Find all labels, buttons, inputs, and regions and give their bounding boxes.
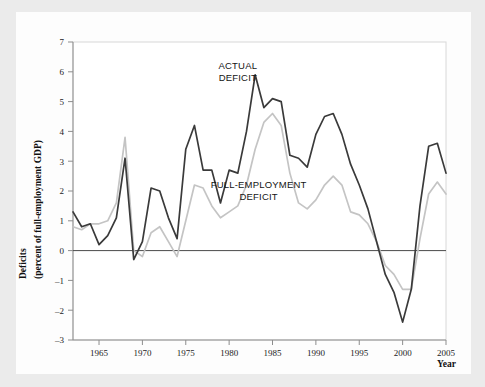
full-employment-deficit-label-line2: DEFICIT (239, 191, 277, 202)
y-tick-label: –1 (54, 276, 64, 286)
x-tick-label: 1965 (90, 348, 109, 358)
y-tick-label: 1 (60, 216, 65, 226)
y-tick-label: 6 (60, 67, 65, 77)
x-axis-title: Year (437, 359, 457, 369)
full-employment-deficit-label-line1: FULL-EMPLOYMENT (211, 179, 307, 190)
y-tick-label: 0 (60, 246, 65, 256)
x-tick-label: 2000 (394, 348, 413, 358)
y-tick-label: 5 (60, 97, 65, 107)
y-axis-title-line1: Deficits (18, 248, 28, 279)
actual-deficit-label-line2: DEFICIT (219, 72, 257, 83)
x-axis-ticks: 196519701975198019851990199520002005 (90, 340, 455, 358)
x-tick-label: 1995 (350, 348, 369, 358)
y-tick-label: –2 (54, 306, 64, 316)
y-tick-label: 4 (60, 127, 65, 137)
y-axis-ticks: 76543210–1–2–3 (54, 37, 73, 345)
y-axis-title-line2: (percent of full-employment GDP) (33, 140, 44, 279)
x-tick-label: 1970 (133, 348, 152, 358)
figure-canvas: 76543210–1–2–3 1965197019751980198519901… (0, 0, 485, 387)
y-tick-label: 3 (60, 157, 65, 167)
x-tick-label: 1990 (307, 348, 326, 358)
chart-container: 76543210–1–2–3 1965197019751980198519901… (0, 0, 485, 387)
y-tick-label: 7 (60, 37, 65, 47)
x-tick-label: 1975 (177, 348, 196, 358)
x-tick-label: 1985 (264, 348, 283, 358)
actual-deficit-label-line1: ACTUAL (218, 60, 257, 71)
y-tick-label: –3 (54, 335, 65, 345)
y-tick-label: 2 (60, 186, 65, 196)
x-tick-label: 1980 (220, 348, 239, 358)
deficits-line-chart: 76543210–1–2–3 1965197019751980198519901… (0, 0, 485, 387)
x-tick-label: 2005 (437, 348, 456, 358)
